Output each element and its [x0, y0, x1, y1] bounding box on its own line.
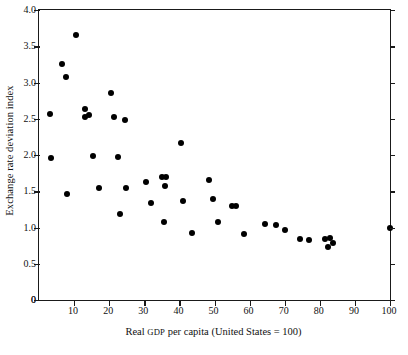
data-point	[262, 221, 268, 227]
x-axis-origin-label: 0	[2, 294, 36, 305]
y-axis-tick-label: 3.5	[2, 40, 36, 51]
data-point	[108, 90, 114, 96]
x-axis-tick-label: 100	[382, 305, 397, 316]
data-point	[122, 117, 128, 123]
y-axis-tick-right	[390, 119, 396, 120]
x-axis-tick-label: 90	[349, 305, 359, 316]
y-axis-tick-label: 4.0	[2, 4, 36, 15]
data-point	[162, 183, 168, 189]
y-axis-tick-label: 2.5	[2, 112, 36, 123]
y-axis-tick-right	[390, 83, 396, 84]
x-axis-tick-label: 80	[314, 305, 324, 316]
x-axis-tick-labels: 102030405060708090100	[38, 305, 389, 321]
x-axis-tick-label: 10	[68, 305, 78, 316]
data-point	[111, 114, 117, 120]
data-point	[306, 237, 312, 243]
y-axis-tick-right	[390, 191, 396, 192]
data-point	[115, 154, 121, 160]
y-axis-tick-right	[390, 264, 396, 265]
data-point	[63, 74, 69, 80]
data-point	[297, 236, 303, 242]
x-axis-title-smallcaps: GDP	[147, 327, 165, 337]
data-point	[148, 200, 154, 206]
y-axis-tick	[34, 300, 40, 301]
y-axis-tick-label: 1.0	[2, 221, 36, 232]
data-point	[90, 153, 96, 159]
y-axis-tick-label: 3.0	[2, 76, 36, 87]
x-axis-tick-label: 40	[173, 305, 183, 316]
y-axis-tick	[34, 264, 40, 265]
x-axis-tick-label: 30	[138, 305, 148, 316]
x-axis-title-before: Real	[125, 326, 147, 337]
data-point	[117, 211, 123, 217]
x-axis-title-after: per capita (United States = 100)	[165, 326, 302, 337]
data-point	[123, 185, 129, 191]
data-point	[210, 196, 216, 202]
y-axis-tick-right	[390, 228, 396, 229]
y-axis-tick	[34, 10, 40, 11]
x-axis-tick-label: 20	[103, 305, 113, 316]
data-point	[189, 230, 195, 236]
data-point	[273, 222, 279, 228]
data-point	[178, 140, 184, 146]
plot-area	[38, 9, 391, 301]
y-axis-tick	[34, 119, 40, 120]
x-axis-title: Real GDP per capita (United States = 100…	[38, 326, 389, 337]
data-point	[215, 219, 221, 225]
data-point	[233, 203, 239, 209]
y-axis-tick-labels: 00.51.01.52.02.53.03.54.00	[0, 0, 36, 355]
data-point	[64, 191, 70, 197]
data-point	[163, 174, 169, 180]
data-point	[86, 112, 92, 118]
y-axis-tick-right	[390, 46, 396, 47]
data-point	[48, 155, 54, 161]
y-axis-tick-right	[390, 155, 396, 156]
y-axis-tick	[34, 191, 40, 192]
y-axis-tick	[34, 155, 40, 156]
chart-page: Exchange rate deviation index 00.51.01.5…	[0, 0, 408, 355]
data-point	[73, 32, 79, 38]
y-axis-tick-right	[390, 10, 396, 11]
data-point	[282, 227, 288, 233]
data-point	[241, 231, 247, 237]
data-point	[96, 185, 102, 191]
x-axis-tick-label: 70	[279, 305, 289, 316]
data-point	[161, 219, 167, 225]
data-point	[47, 111, 53, 117]
data-point	[330, 240, 336, 246]
y-axis-tick-label: 0.5	[2, 257, 36, 268]
y-axis-tick-label: 1.5	[2, 185, 36, 196]
data-point	[143, 179, 149, 185]
x-axis-tick-label: 50	[209, 305, 219, 316]
plot-inner	[39, 10, 390, 300]
data-point	[59, 61, 65, 67]
y-axis-tick	[34, 228, 40, 229]
y-axis-tick	[34, 83, 40, 84]
data-point	[180, 198, 186, 204]
y-axis-tick-label: 2.0	[2, 149, 36, 160]
x-axis-tick-label: 60	[244, 305, 254, 316]
y-axis-tick	[34, 46, 40, 47]
data-point	[206, 177, 212, 183]
